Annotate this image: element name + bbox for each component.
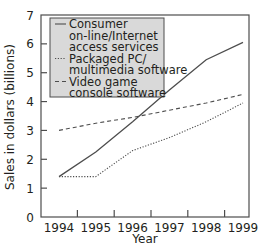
x-axis-title: Year xyxy=(131,232,157,246)
y-tick-label: 5 xyxy=(26,66,34,80)
y-tick-label: 6 xyxy=(26,37,34,51)
y-tick-label: 3 xyxy=(26,124,34,138)
y-tick-label: 7 xyxy=(26,9,34,23)
y-axis-ticks: 01234567 xyxy=(26,9,47,225)
legend-label: console software xyxy=(69,86,166,100)
legend: Consumeron-line/Internetaccess servicesP… xyxy=(50,17,187,100)
y-tick-label: 4 xyxy=(26,95,34,109)
x-tick-label: 1998 xyxy=(191,221,222,235)
y-tick-label: 1 xyxy=(26,182,34,196)
y-tick-label: 0 xyxy=(26,211,34,225)
x-tick-label: 1997 xyxy=(154,221,185,235)
y-axis-title: Sales in dollars (billions) xyxy=(3,44,17,190)
line-chart: 01234567 199419951996199719981999 Sales … xyxy=(0,0,274,252)
x-tick-label: 1994 xyxy=(44,221,75,235)
x-tick-label: 1995 xyxy=(81,221,112,235)
x-tick-label: 1999 xyxy=(228,221,259,235)
y-tick-label: 2 xyxy=(26,153,34,167)
